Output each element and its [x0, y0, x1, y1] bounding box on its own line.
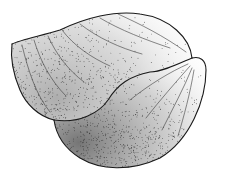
stipple-dot [106, 172, 107, 173]
stipple-dot [204, 151, 205, 152]
stipple-dot [147, 158, 148, 159]
stipple-dot [186, 177, 187, 178]
stipple-dot [134, 170, 135, 171]
stipple-dot [152, 134, 153, 135]
stipple-dot [125, 76, 126, 77]
stipple-dot [185, 150, 186, 151]
stipple-dot [78, 72, 79, 73]
stipple-dot [62, 56, 63, 57]
stipple-dot [207, 140, 208, 141]
stipple-dot [64, 72, 65, 73]
stipple-dot [103, 126, 104, 127]
stipple-dot [68, 162, 69, 163]
stipple-dot [224, 170, 225, 171]
stipple-dot [31, 169, 32, 170]
stipple-dot [161, 169, 162, 170]
stipple-dot [66, 109, 67, 110]
stipple-dot [8, 71, 9, 72]
stipple-dot [89, 22, 90, 23]
stipple-dot [131, 169, 132, 170]
stipple-dot [181, 149, 182, 150]
stipple-dot [68, 177, 69, 178]
stipple-dot [184, 17, 185, 18]
stipple-dot [118, 60, 119, 61]
stipple-dot [69, 109, 70, 110]
stipple-dot [205, 21, 206, 22]
stipple-dot [223, 89, 224, 90]
stipple-dot [80, 136, 81, 137]
stipple-dot [193, 135, 194, 136]
stipple-dot [57, 139, 58, 140]
stipple-dot [81, 154, 82, 155]
stipple-dot [172, 136, 173, 137]
stipple-dot [4, 70, 5, 71]
stipple-dot [13, 168, 14, 169]
stipple-dot [168, 54, 169, 55]
stipple-dot [192, 149, 193, 150]
stipple-dot [30, 117, 31, 118]
stipple-dot [65, 60, 66, 61]
stipple-dot [113, 87, 114, 88]
stipple-dot [110, 151, 111, 152]
stipple-dot [139, 131, 140, 132]
stipple-dot [16, 73, 17, 74]
stipple-dot [182, 166, 183, 167]
stipple-dot [103, 146, 104, 147]
stipple-dot [73, 158, 74, 159]
stipple-dot [82, 165, 83, 166]
stipple-dot [2, 95, 3, 96]
stipple-dot [151, 34, 152, 35]
stipple-dot [138, 171, 139, 172]
stipple-dot [60, 151, 61, 152]
stipple-dot [87, 153, 88, 154]
stipple-dot [138, 137, 139, 138]
stipple-dot [14, 21, 15, 22]
stipple-dot [42, 156, 43, 157]
stipple-dot [212, 108, 213, 109]
stipple-dot [5, 153, 6, 154]
stipple-dot [190, 145, 191, 146]
stipple-dot [167, 150, 168, 151]
stipple-dot [16, 107, 17, 108]
stipple-dot [116, 147, 117, 148]
stipple-dot [55, 116, 56, 117]
stipple-dot [47, 135, 48, 136]
stipple-dot [81, 153, 82, 154]
stipple-dot [42, 104, 43, 105]
stipple-dot [50, 148, 51, 149]
stipple-dot [97, 156, 98, 157]
stipple-dot [173, 170, 174, 171]
stipple-dot [121, 162, 122, 163]
stipple-dot [183, 142, 184, 143]
stipple-dot [30, 163, 31, 164]
stipple-dot [51, 157, 52, 158]
stipple-dot [92, 87, 93, 88]
stipple-dot [107, 93, 108, 94]
stipple-dot [15, 127, 16, 128]
stipple-dot [15, 105, 16, 106]
stipple-dot [162, 138, 163, 139]
stipple-dot [5, 102, 6, 103]
stipple-dot [118, 176, 119, 177]
stipple-dot [209, 135, 210, 136]
stipple-dot [10, 110, 11, 111]
stipple-dot [17, 176, 18, 177]
stipple-dot [168, 140, 169, 141]
stipple-dot [61, 163, 62, 164]
stipple-dot [222, 82, 223, 83]
stipple-dot [22, 152, 23, 153]
stipple-dot [17, 153, 18, 154]
stipple-dot [65, 9, 66, 10]
stipple-dot [33, 165, 34, 166]
stipple-dot [96, 92, 97, 93]
stipple-dot [2, 91, 3, 92]
stipple-dot [12, 176, 13, 177]
stipple-dot [118, 153, 119, 154]
stipple-dot [58, 110, 59, 111]
stipple-dot [98, 42, 99, 43]
stipple-dot [120, 144, 121, 145]
stipple-dot [45, 112, 46, 113]
stipple-dot [171, 103, 172, 104]
stipple-dot [72, 98, 73, 99]
stipple-dot [57, 68, 58, 69]
